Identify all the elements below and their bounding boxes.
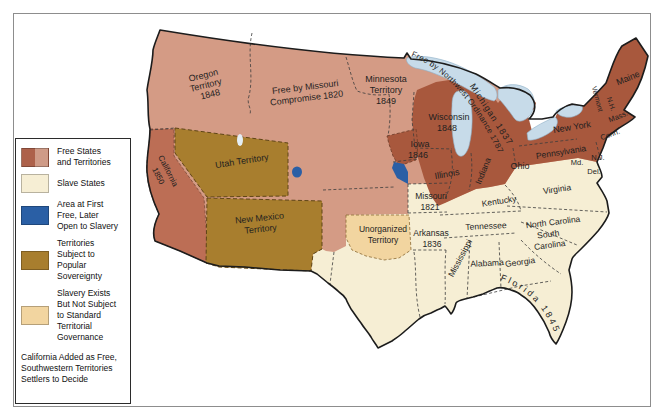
legend-item-slave-states: Slave States — [21, 174, 125, 193]
legend-swatch-slave-states — [21, 174, 49, 193]
svg-text:1821: 1821 — [421, 202, 440, 212]
legend-footnote: California Added as Free, Southwestern T… — [21, 352, 125, 385]
label-new-jersey: N.J. — [591, 153, 604, 162]
historical-us-map: Oregon Territory 1848 Free by Missouri C… — [0, 0, 663, 418]
legend: Free States and Territories Slave States… — [15, 138, 131, 404]
svg-text:1846: 1846 — [408, 150, 428, 160]
label-maryland: Md. — [571, 158, 584, 167]
label-delaware: Del. — [587, 167, 600, 176]
svg-text:Minnesota: Minnesota — [365, 74, 407, 84]
legend-item-first-free: Area at First Free, Later Open to Slaver… — [21, 199, 125, 232]
legend-item-slavery-not-standard: Slavery Exists But Not Subject to Standa… — [21, 288, 125, 343]
label-alabama: Alabama — [470, 257, 504, 269]
svg-text:Arkansas: Arkansas — [413, 228, 448, 238]
svg-text:Wisconsin: Wisconsin — [428, 112, 469, 122]
svg-text:Unorganized: Unorganized — [359, 224, 407, 234]
legend-item-popular-sovereignty: Territories Subject to Popular Sovereign… — [21, 238, 125, 282]
legend-label: Slave States — [57, 178, 105, 189]
svg-text:Iowa: Iowa — [410, 139, 429, 149]
label-ohio: Ohio — [510, 161, 529, 171]
legend-swatch-slavery-not-standard — [21, 306, 49, 325]
legend-label: Area at First Free, Later Open to Slaver… — [57, 199, 118, 232]
region-new-mexico-territory — [206, 198, 322, 271]
svg-text:1848: 1848 — [437, 123, 457, 133]
legend-label: Slavery Exists But Not Subject to Standa… — [57, 288, 116, 343]
region-blue-dot — [292, 167, 302, 178]
legend-swatch-free-states — [21, 148, 49, 167]
svg-text:Missouri: Missouri — [415, 191, 447, 201]
svg-text:1849: 1849 — [376, 96, 396, 106]
legend-swatch-popular-sovereignty — [21, 251, 49, 270]
legend-label: Territories Subject to Popular Sovereign… — [57, 238, 102, 282]
legend-item-free-states: Free States and Territories — [21, 146, 125, 168]
svg-text:Territory: Territory — [368, 235, 399, 245]
svg-text:Territory: Territory — [370, 85, 403, 95]
legend-label: Free States and Territories — [57, 146, 111, 168]
svg-text:1836: 1836 — [423, 239, 442, 249]
label-iowa: Iowa 1846 — [408, 139, 430, 160]
legend-swatch-first-free — [21, 206, 49, 225]
great-salt-lake — [237, 134, 243, 146]
